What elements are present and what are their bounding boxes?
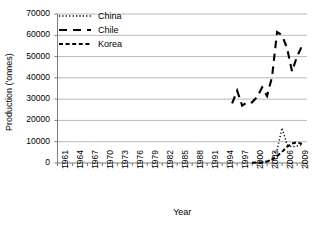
x-tick-label: 1964 (76, 150, 85, 169)
legend-item-china: China (58, 10, 122, 22)
x-tick-label: 1982 (166, 150, 175, 169)
production-line-chart: 700006000050000400003000020000100000 196… (0, 0, 315, 228)
data-series (232, 32, 302, 163)
x-tick-label: 1988 (196, 150, 205, 169)
legend-label-chile: Chile (98, 25, 119, 35)
x-tick-label: 1973 (121, 150, 130, 169)
y-tick-label: 0 (6, 158, 50, 167)
legend-key-dotted-icon (58, 11, 92, 21)
y-axis-title: Production ('onnes) (4, 53, 14, 131)
legend-key-long-dash-icon (58, 25, 92, 35)
x-tick-label: 1970 (106, 150, 115, 169)
x-tick-label: 2009 (301, 150, 310, 169)
x-tick-label: 2000 (256, 150, 265, 169)
legend-key-short-dash-icon (58, 39, 92, 49)
x-tick-label: 1997 (241, 150, 250, 169)
x-tick-label: 1961 (61, 150, 70, 169)
x-tick-label: 1967 (91, 150, 100, 169)
legend-item-chile: Chile (58, 24, 122, 36)
x-tick-label: 1979 (151, 150, 160, 169)
x-tick-label: 2003 (271, 150, 280, 169)
x-tick-label: 1976 (136, 150, 145, 169)
x-tick-label: 1994 (226, 150, 235, 169)
y-tick-label: 60000 (6, 30, 50, 39)
x-tick-label: 1991 (211, 150, 220, 169)
x-tick-label: 2006 (286, 150, 295, 169)
legend-item-korea: Korea (58, 38, 122, 50)
legend-label-china: China (98, 11, 122, 21)
y-tick-label: 10000 (6, 137, 50, 146)
legend-label-korea: Korea (98, 39, 122, 49)
y-tick-label: 70000 (6, 9, 50, 18)
chart-legend: China Chile Korea (58, 10, 122, 50)
x-tick-label: 1985 (181, 150, 190, 169)
x-axis-title: Year (122, 207, 242, 217)
